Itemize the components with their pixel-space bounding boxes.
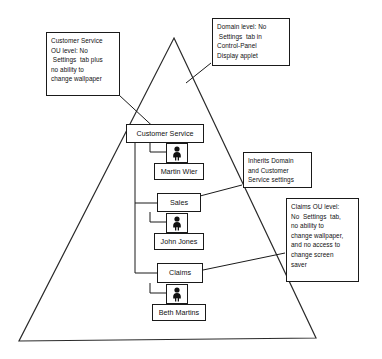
note-line: Control-Panel bbox=[217, 41, 286, 51]
note-line: Domain level: No bbox=[217, 22, 286, 32]
note-line: saver bbox=[291, 260, 355, 270]
note-line: No Settings tab, bbox=[291, 212, 355, 222]
note-inherits: Inherits Domain and Customer Service set… bbox=[243, 152, 312, 188]
node-sales[interactable]: Sales bbox=[157, 193, 201, 212]
note-customer-service-ou: Customer Service OU level: No Settings t… bbox=[46, 32, 120, 96]
note-line: Display applet bbox=[217, 51, 286, 61]
connector-customer-service-to-martin-wier bbox=[150, 143, 166, 152]
connector-claims-to-beth-martins bbox=[150, 283, 166, 293]
note-line: Claims OU level: bbox=[291, 202, 355, 212]
note-claims-ou: Claims OU level: No Settings tab, no abi… bbox=[286, 198, 359, 282]
node-martin-wier[interactable]: Martin Wier bbox=[154, 163, 204, 180]
user-glyph bbox=[171, 216, 183, 231]
user-glyph bbox=[171, 146, 183, 161]
note-line: Settings tab in bbox=[217, 32, 286, 42]
node-john-jones[interactable]: John Jones bbox=[154, 233, 204, 250]
user-icon bbox=[166, 284, 188, 304]
note-line: no ability to bbox=[291, 221, 355, 231]
note-line: and Customer bbox=[248, 166, 308, 176]
note-line: change screen bbox=[291, 250, 355, 260]
node-beth-martins[interactable]: Beth Martins bbox=[152, 304, 206, 321]
note-line: Settings tab plus bbox=[51, 55, 116, 65]
note-line: change wallpaper bbox=[51, 74, 116, 84]
connector-sales-to-john-jones bbox=[150, 212, 166, 222]
group-policy-inheritance-diagram: Customer Service OU level: No Settings t… bbox=[0, 0, 382, 359]
note-domain-level: Domain level: No Settings tab in Control… bbox=[212, 18, 290, 66]
note-line: OU level: No bbox=[51, 46, 116, 56]
node-claims[interactable]: Claims bbox=[157, 263, 203, 283]
user-icon bbox=[166, 213, 188, 233]
leader-domain-note bbox=[186, 63, 211, 83]
leader-claims-note bbox=[203, 253, 285, 270]
note-line: and no access to bbox=[291, 240, 355, 250]
user-icon bbox=[166, 143, 188, 163]
note-line: Service settings bbox=[248, 175, 308, 185]
note-line: Customer Service bbox=[51, 36, 116, 46]
note-line: no ability to bbox=[51, 65, 116, 75]
note-line: change wallpaper, bbox=[291, 231, 355, 241]
node-customer-service[interactable]: Customer Service bbox=[126, 124, 204, 143]
note-line: Inherits Domain bbox=[248, 156, 308, 166]
user-glyph bbox=[171, 287, 183, 302]
leader-inherits-note bbox=[200, 185, 242, 196]
